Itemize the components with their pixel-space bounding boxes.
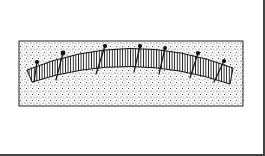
wattle-diagram	[0, 0, 265, 156]
figure-frame	[0, 0, 265, 156]
